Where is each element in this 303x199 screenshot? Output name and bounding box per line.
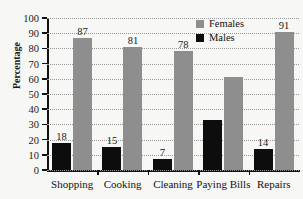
x-category-label: Repairs [257,178,291,190]
bar-value-label: 91 [279,20,290,31]
bar-male-shopping: 18 [52,143,71,170]
y-tick-label: 40 [29,104,40,115]
y-tick-label: 10 [29,149,40,160]
bar-group: 1491 [254,18,298,170]
x-category-label: Paying Bills [196,178,250,190]
y-tick-label: 70 [29,58,40,69]
legend-item-females: Females [196,17,244,30]
plot-area: 01020304050607080901001887Shopping1581Co… [47,18,299,170]
x-tick-mark [97,170,99,175]
y-tick-mark [42,169,47,171]
bar-female-cooking: 81 [123,47,142,170]
y-tick-mark [42,93,47,95]
x-category-label: Shopping [51,178,93,190]
bar-male-repairs: 14 [254,149,273,170]
y-tick-label: 100 [23,13,39,24]
x-category-label: Cleaning [153,178,193,190]
y-tick-mark [42,17,47,19]
legend-label-females: Females [209,18,244,29]
bar-group: 778 [153,18,197,170]
chart-legend: Females Males [196,17,244,45]
y-tick-label: 30 [29,119,40,130]
bar-female-shopping: 87 [73,38,92,170]
bar-value-label: 78 [178,39,189,50]
bar-value-label: 7 [160,147,165,158]
bar-value-label: 18 [56,131,67,142]
x-tick-mark [148,170,150,175]
y-tick-mark [42,154,47,156]
legend-swatch-males [196,34,204,42]
bar-male-cooking: 15 [102,147,121,170]
bar-male-cleaning: 7 [153,159,172,170]
y-tick-label: 20 [29,134,40,145]
bar-female-cleaning: 78 [174,51,193,170]
bar-value-label: 14 [258,137,269,148]
y-tick-label: 50 [29,89,40,100]
y-tick-mark [42,78,47,80]
bar-chart: Percentage 01020304050607080901001887Sho… [0,0,303,199]
bar-group: 1887 [52,18,96,170]
gridline [47,170,299,171]
y-tick-label: 60 [29,73,40,84]
y-tick-mark [42,48,47,50]
bar-value-label: 81 [128,35,139,46]
legend-swatch-females [196,20,204,28]
bar-female-repairs: 91 [275,32,294,170]
x-category-label: Cooking [104,178,142,190]
y-tick-label: 0 [34,165,39,176]
y-tick-mark [42,32,47,34]
bar-group: 1581 [102,18,146,170]
y-tick-label: 80 [29,43,40,54]
legend-item-males: Males [196,31,244,44]
bar-value-label: 87 [77,26,88,37]
x-tick-mark [249,170,251,175]
y-tick-mark [42,124,47,126]
x-tick-mark [198,170,200,175]
y-tick-mark [42,139,47,141]
y-tick-mark [42,63,47,65]
y-tick-label: 90 [29,28,40,39]
legend-label-males: Males [209,32,235,43]
y-axis-title: Percentage [11,24,22,108]
bar-male-paying-bills [203,120,222,170]
bar-value-label: 15 [107,135,118,146]
y-tick-mark [42,108,47,110]
bar-female-paying-bills [224,77,243,170]
